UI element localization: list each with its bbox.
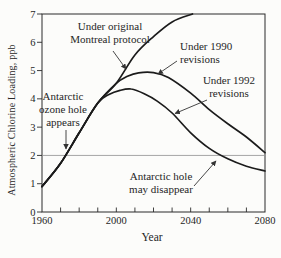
annotation-revisions-1990: Under 1990 revisions [180, 40, 252, 66]
annotation-ozone-hole-disappear: Antarctic hole may disappear [116, 170, 206, 196]
y-tick-label: 2 [30, 150, 35, 161]
y-tick-label: 1 [30, 178, 35, 189]
annotation-line: ozone hole [31, 103, 95, 116]
annotation-line: Under 1992 [197, 74, 261, 87]
annotation-revisions-1992: Under 1992 revisions [197, 74, 261, 100]
annotation-line: Antarctic hole [116, 170, 206, 183]
annotation-line: Under original [58, 20, 162, 33]
chlorine-loading-figure: 012345671960200020402080 Under original … [0, 0, 281, 258]
annotation-line: may disappear [116, 183, 206, 196]
annotation-line: appears [31, 116, 95, 129]
x-axis-title: Year [112, 231, 192, 243]
y-tick-label: 6 [30, 37, 35, 48]
annotation-line: revisions [197, 87, 261, 100]
annotation-line: Montreal protocol [58, 33, 162, 46]
annotation-ozone-hole-appears: Antarctic ozone hole appears [31, 90, 95, 129]
annotation-line: Antarctic [31, 90, 95, 103]
y-axis-title: Atmospheric Chlorine Loading, ppb [6, 44, 17, 196]
x-tick-label: 2000 [106, 215, 127, 226]
annotation-original-protocol: Under original Montreal protocol [58, 20, 162, 46]
y-tick-label: 7 [30, 9, 35, 20]
arrow-revisions-1990 [158, 61, 177, 74]
x-tick-label: 2040 [180, 215, 201, 226]
arrow-original-protocol [113, 51, 126, 69]
y-tick-label: 5 [30, 65, 35, 76]
annotation-line: Under 1990 [180, 40, 252, 53]
x-tick-label: 1960 [32, 215, 53, 226]
annotation-line: revisions [180, 53, 252, 66]
x-tick-label: 2080 [255, 215, 276, 226]
arrow-revisions-1992 [175, 100, 207, 114]
